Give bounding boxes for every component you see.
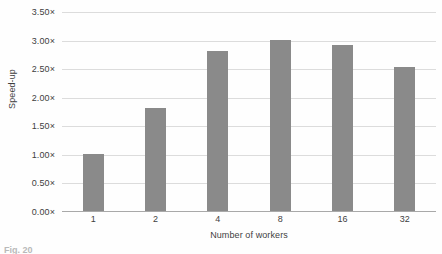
x-axis-tick-5: 32 [385, 214, 425, 224]
bar [145, 108, 166, 211]
x-axis-label: Number of workers [62, 230, 436, 240]
bar [83, 154, 104, 211]
y-axis-tick-0: 0.00× [32, 207, 55, 217]
bar [332, 45, 353, 211]
x-axis-tick-1: 2 [136, 214, 176, 224]
y-axis-tick-6: 3.00× [32, 36, 55, 46]
y-axis-tick-3: 1.50× [32, 121, 55, 131]
y-axis-tick-7: 3.50× [32, 7, 55, 17]
x-axis-line [62, 211, 436, 212]
bar-series [62, 12, 436, 212]
x-axis-tick-labels: 12481632 [62, 214, 436, 228]
y-axis-tick-5: 2.50× [32, 64, 55, 74]
x-axis-tick-0: 1 [73, 214, 113, 224]
x-axis-tick-2: 4 [198, 214, 238, 224]
figure-container: Speed-up 0.00×0.50×1.00×1.50×2.00×2.50×3… [0, 0, 442, 254]
bar [207, 51, 228, 211]
figure-caption: Fig. 20 [4, 245, 33, 254]
y-axis-tick-4: 2.00× [32, 93, 55, 103]
x-axis-tick-4: 16 [323, 214, 363, 224]
plot-area [62, 12, 436, 212]
bar [270, 40, 291, 211]
y-axis-tick-labels: 0.00×0.50×1.00×1.50×2.00×2.50×3.00×3.50× [0, 0, 62, 254]
bar [394, 67, 415, 211]
y-axis-tick-1: 0.50× [32, 178, 55, 188]
y-axis-tick-2: 1.00× [32, 150, 55, 160]
x-axis-tick-3: 8 [260, 214, 300, 224]
